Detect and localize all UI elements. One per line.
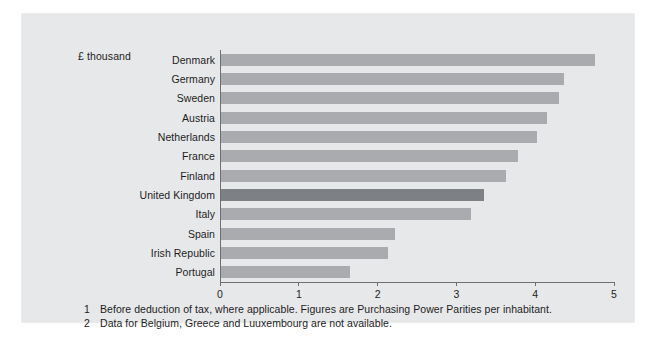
category-label: Sweden (177, 92, 215, 104)
chart-panel: £ thousand DenmarkGermanySwedenAustriaNe… (22, 14, 634, 322)
plot-area: DenmarkGermanySwedenAustriaNetherlandsFr… (220, 50, 614, 282)
bar-row: Sweden (221, 89, 614, 108)
bar (221, 73, 564, 85)
bar (221, 247, 388, 259)
category-label: France (182, 150, 215, 162)
category-label: Finland (180, 170, 215, 182)
footnote-number: 1 (84, 302, 100, 316)
category-label: Denmark (172, 54, 215, 66)
bar (221, 112, 547, 124)
x-tick (535, 282, 536, 286)
x-axis-line (220, 282, 614, 283)
x-tick-label: 0 (217, 288, 223, 300)
bar-row: Portugal (221, 263, 614, 282)
bar (221, 189, 484, 201)
bar-row: Germany (221, 69, 614, 88)
bar-row: Finland (221, 166, 614, 185)
category-label: Netherlands (158, 131, 215, 143)
bar-rows: DenmarkGermanySwedenAustriaNetherlandsFr… (221, 50, 614, 282)
footnote: 2Data for Belgium, Greece and Luuxembour… (84, 316, 624, 330)
x-tick-label: 4 (532, 288, 538, 300)
footnote-text: Before deduction of tax, where applicabl… (100, 302, 552, 316)
bar-row: Irish Republic (221, 243, 614, 262)
bottom-caption (96, 329, 576, 337)
bar (221, 131, 537, 143)
footnote-number: 2 (84, 316, 100, 330)
footnote-text: Data for Belgium, Greece and Luuxembourg… (100, 316, 392, 330)
bar-row: Netherlands (221, 127, 614, 146)
x-tick-label: 2 (375, 288, 381, 300)
unit-caption: £ thousand (78, 50, 131, 62)
footnotes: 1Before deduction of tax, where applicab… (84, 302, 624, 330)
footnote: 1Before deduction of tax, where applicab… (84, 302, 624, 316)
x-tick-label: 1 (296, 288, 302, 300)
bar-row: Austria (221, 108, 614, 127)
x-tick (298, 282, 299, 286)
bar (221, 54, 595, 66)
category-label: Germany (171, 73, 215, 85)
x-tick (377, 282, 378, 286)
x-tick-label: 3 (453, 288, 459, 300)
x-tick (614, 282, 615, 286)
category-label: Italy (195, 208, 215, 220)
x-tick (456, 282, 457, 286)
bar (221, 208, 471, 220)
bar (221, 266, 350, 278)
bar-row: Spain (221, 224, 614, 243)
category-label: Spain (188, 228, 215, 240)
x-tick-label: 5 (611, 288, 617, 300)
bar-row: France (221, 147, 614, 166)
chart-screenshot: £ thousand DenmarkGermanySwedenAustriaNe… (0, 0, 650, 338)
category-label: Austria (182, 112, 215, 124)
bar (221, 150, 518, 162)
bar-row: United Kingdom (221, 185, 614, 204)
bar (221, 170, 506, 182)
category-label: United Kingdom (140, 189, 215, 201)
x-tick (220, 282, 221, 286)
bar (221, 92, 559, 104)
bar-row: Italy (221, 205, 614, 224)
category-label: Portugal (175, 266, 215, 278)
category-label: Irish Republic (151, 247, 215, 259)
bar-row: Denmark (221, 50, 614, 69)
bar (221, 228, 395, 240)
